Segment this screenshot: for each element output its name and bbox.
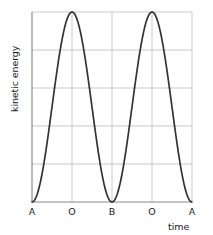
y-axis-label: kinetic energy [9,12,23,112]
x-tick-label-o-second: O [142,206,162,217]
kinetic-energy-chart-figure: kinetic energy A O B O A time [0,0,213,235]
x-tick-label-a-end: A [182,206,202,217]
y-axis-label-container: kinetic energy [9,112,23,212]
chart-plot-svg [0,0,213,235]
x-tick-label-o-first: O [62,206,82,217]
x-tick-label-a-start: A [22,206,42,217]
x-tick-label-b: B [102,206,122,217]
x-axis-label: time [168,221,208,232]
